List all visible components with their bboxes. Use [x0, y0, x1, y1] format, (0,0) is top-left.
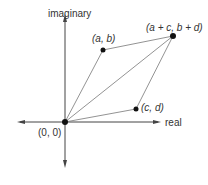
point-origin	[62, 119, 68, 125]
axes	[17, 14, 161, 168]
point-sum-label: (a + c, b + d)	[146, 22, 203, 33]
point-c-d	[134, 107, 139, 112]
point-a-b	[101, 48, 106, 53]
point-sum	[170, 33, 176, 39]
point-c-d-label: (c, d)	[141, 102, 164, 113]
origin-label: (0, 0)	[38, 127, 61, 138]
imaginary-axis-label: imaginary	[48, 8, 91, 19]
edge-cd-sum	[136, 36, 173, 109]
edge-origin-ab	[65, 50, 103, 122]
point-a-b-label: (a, b)	[92, 33, 115, 44]
imaginary-axis-down-arrow-icon	[63, 160, 67, 168]
edge-origin-cd	[65, 109, 136, 122]
real-axis-label: real	[165, 117, 182, 128]
real-axis-left-arrow-icon	[17, 120, 25, 124]
real-axis-right-arrow-icon	[153, 120, 161, 124]
